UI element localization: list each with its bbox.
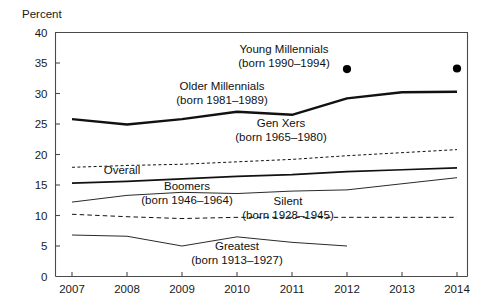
annotation-label-older-millennials: Older Millennials [179,80,264,92]
annotation-label-silent: Silent [274,195,304,207]
y-tick-label: 40 [35,27,48,39]
annotation-label-young-millennials: Young Millennials [239,43,328,55]
data-point-young-millennials [453,64,461,72]
annotation-label-overall: Overall [104,164,140,176]
y-tick-label: 25 [35,118,48,130]
annotation-label-boomers: Boomers [164,180,210,192]
x-tick-label: 2014 [444,283,470,295]
y-tick-label: 20 [35,149,48,161]
data-point-young-millennials [343,65,351,73]
x-tick-label: 2012 [334,283,360,295]
annotation-sublabel-older-millennials: (born 1981–1989) [176,94,268,106]
x-tick-label: 2011 [280,283,305,295]
annotation-sublabel-boomers: (born 1946–1964) [141,194,233,206]
x-tick-label: 2008 [114,283,140,295]
annotation-sublabel-young-millennials: (born 1990–1994) [238,57,330,69]
x-tick-label: 2010 [224,283,250,295]
y-tick-label: 15 [35,179,48,191]
annotation-sublabel-greatest: (born 1913–1927) [191,254,283,266]
y-tick-label: 30 [35,88,48,100]
x-tick-label: 2013 [389,283,415,295]
x-tick-label: 2007 [59,283,85,295]
y-tick-label: 10 [35,210,48,222]
annotation-sublabel-gen-xers: (born 1965–1980) [235,131,327,143]
chart-figure: Percent 0510152025303540 200720082009201… [0,0,483,305]
y-tick-label: 5 [41,240,47,252]
y-tick-label: 35 [35,57,48,69]
annotation-label-gen-xers: Gen Xers [257,117,306,129]
annotation-overall: Overall [104,164,140,176]
annotation-sublabel-silent: (born 1928–1945) [242,209,334,221]
x-tick-label: 2009 [169,283,195,295]
y-axis-title: Percent [22,8,62,20]
y-tick-label: 0 [41,271,47,283]
annotation-label-greatest: Greatest [215,240,260,252]
line-chart-canvas: Percent 0510152025303540 200720082009201… [0,0,483,305]
